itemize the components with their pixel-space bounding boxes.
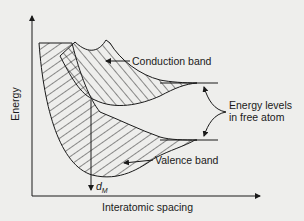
y-axis-label: Energy [9,87,21,120]
energy-levels-label-line2: in free atom [229,111,284,123]
equilibrium-spacing-label: dM [96,180,108,194]
conduction-band-label: Conduction band [132,55,211,67]
dm-subscript: M [102,187,108,194]
energy-levels-leader-upper [204,87,226,112]
energy-levels-label-line1: Energy levels [229,99,292,111]
energy-levels-leader-lower [204,112,226,136]
x-axis-label: Interatomic spacing [102,201,193,213]
valence-band-label: Valence band [155,154,218,166]
